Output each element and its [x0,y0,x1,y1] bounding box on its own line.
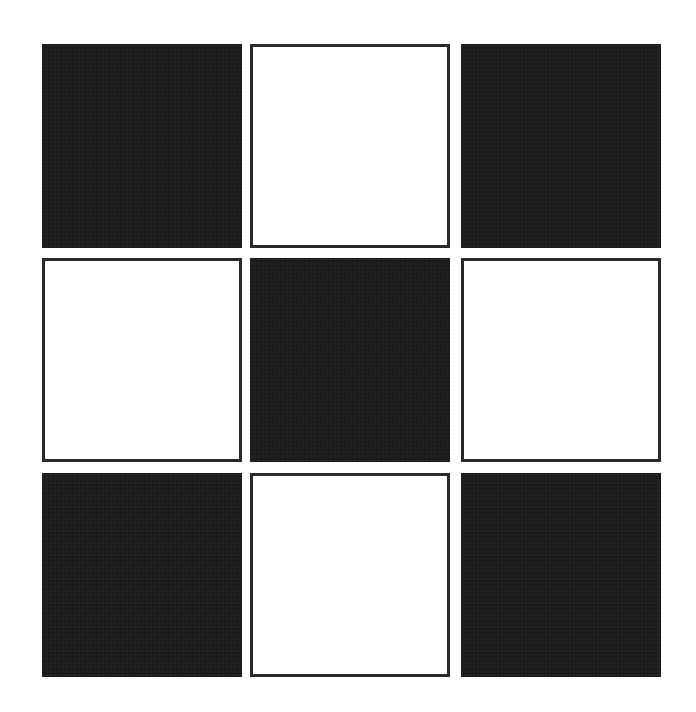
light-square-r0-c1 [250,44,450,248]
dark-square-r0-c0 [42,44,242,248]
dark-square-r1-c1 [250,258,450,462]
dark-square-r2-c2 [461,473,661,677]
light-square-r1-c2 [461,258,661,462]
light-square-r2-c1 [250,473,450,677]
light-square-r1-c0 [42,258,242,462]
checkerboard-grid [0,0,696,712]
dark-square-r2-c0 [42,473,242,677]
dark-square-r0-c2 [461,44,661,248]
